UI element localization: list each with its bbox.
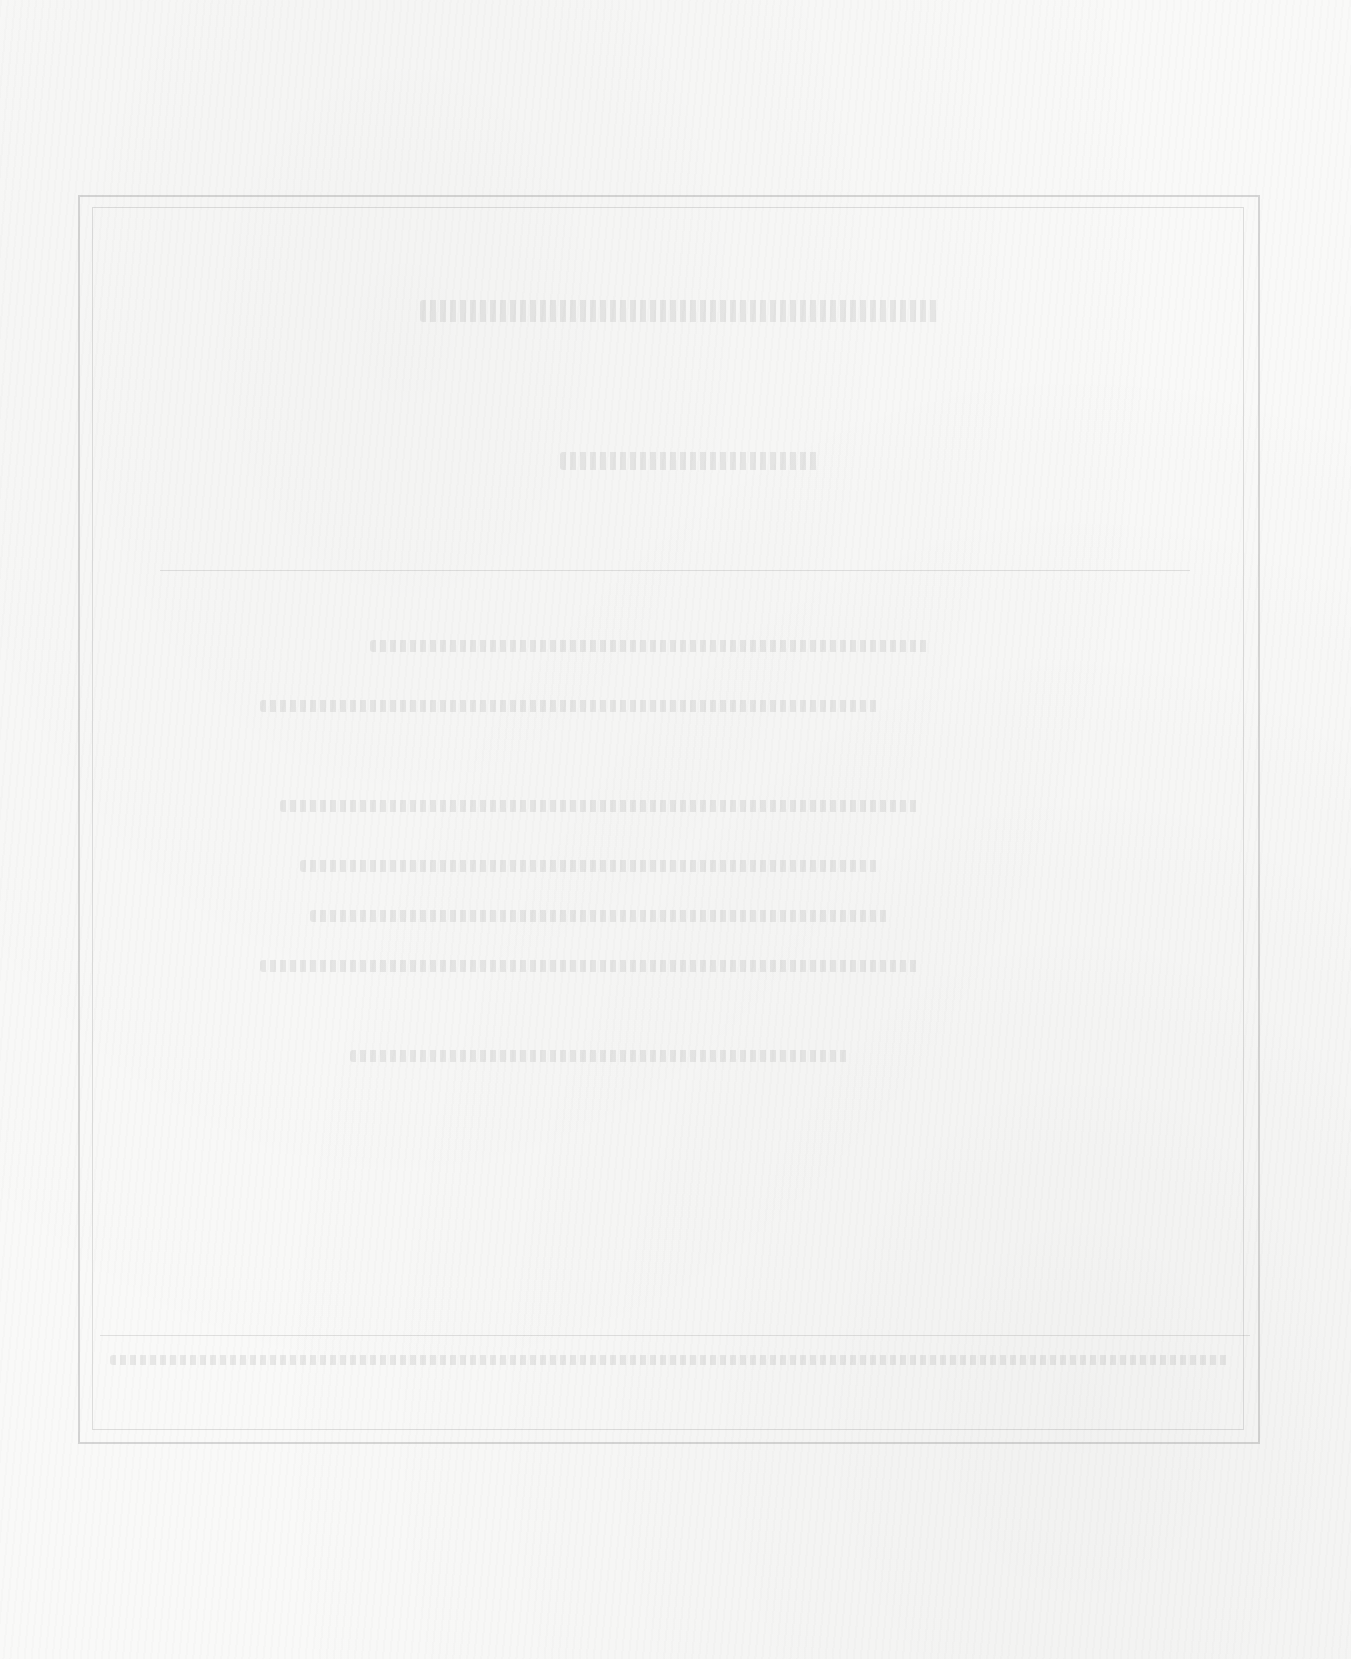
bleed-through-title [420, 300, 940, 322]
bleed-through-line [370, 640, 930, 652]
bleed-through-line [350, 1050, 850, 1062]
footer-rule [100, 1335, 1250, 1336]
bleed-through-line [260, 700, 880, 712]
page-border-inner [92, 207, 1244, 1430]
bleed-through-heading [560, 452, 820, 470]
bleed-through-footer [110, 1355, 1230, 1365]
bleed-through-line [260, 960, 920, 972]
bleed-through-line [300, 860, 880, 872]
bleed-through-line [280, 800, 920, 812]
bleed-through-line [310, 910, 890, 922]
divider-rule [160, 570, 1190, 571]
